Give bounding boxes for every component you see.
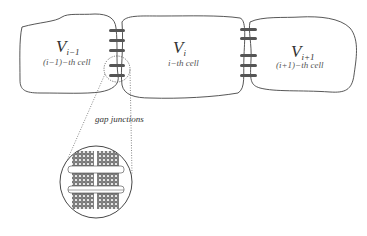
svg-text:i−th cell: i−th cell bbox=[168, 58, 199, 68]
cell-middle-label: Vi i−th cell bbox=[168, 38, 199, 68]
gap-junction-diagram: Vi−1 (i−1)−th cell Vi i−th cell Vi+1 (i+… bbox=[0, 0, 367, 236]
cell-right-label: Vi+1 (i+1)−th cell bbox=[276, 42, 324, 70]
junction-right bbox=[240, 28, 257, 77]
svg-text:(i+1)−th cell: (i+1)−th cell bbox=[276, 60, 324, 70]
cell-left-label: Vi−1 (i−1)−th cell bbox=[43, 37, 91, 67]
inset-circle bbox=[60, 146, 132, 218]
svg-text:Vi: Vi bbox=[173, 38, 186, 58]
gap-junctions-label: gap junctions bbox=[95, 114, 144, 124]
svg-text:Vi+1: Vi+1 bbox=[291, 42, 314, 62]
svg-text:Vi−1: Vi−1 bbox=[56, 37, 79, 57]
svg-text:(i−1)−th cell: (i−1)−th cell bbox=[43, 57, 91, 67]
